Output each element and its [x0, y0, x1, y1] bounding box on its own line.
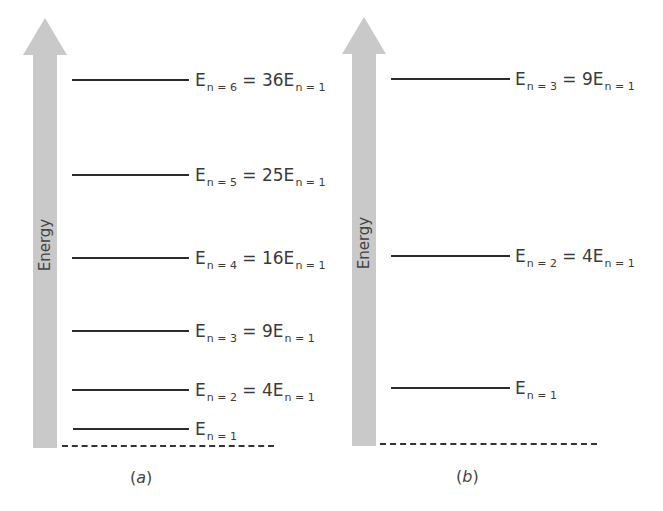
level-line-n1 — [391, 387, 510, 389]
level-line-n2 — [391, 255, 510, 257]
level-label-n3: En = 3 = 9En = 1 — [515, 69, 635, 92]
energy-arrow-head-icon — [342, 17, 386, 54]
level-label-n1: En = 1 — [515, 378, 557, 401]
panel-b: Energy En = 3 = 9En = 1 En = 2 = 4En = 1… — [0, 0, 663, 511]
energy-axis-label: Energy — [355, 208, 373, 278]
panel-caption-b: (b) — [456, 467, 479, 486]
zero-energy-baseline — [380, 443, 597, 445]
level-label-n2: En = 2 = 4En = 1 — [515, 246, 635, 269]
level-line-n3 — [391, 78, 510, 80]
